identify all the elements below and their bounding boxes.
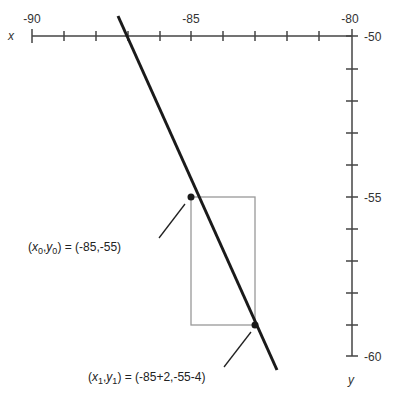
x-tick-label-left: -90 [23, 12, 41, 26]
point-p1 [252, 322, 259, 329]
y-tick-label-top: -50 [364, 30, 382, 44]
x-axis [32, 29, 352, 43]
y-tick-label-bottom: -60 [364, 350, 382, 364]
delta-rectangle [191, 197, 255, 325]
x-tick-label-mid: -85 [182, 12, 200, 26]
y-tick-label-mid: -55 [364, 191, 382, 205]
annotation-p1: (x1,y1) = (-85+2,-55-4) [88, 370, 205, 386]
x-tick-label-right: -80 [341, 12, 359, 26]
annotation-p0: (x0,y0) = (-85,-55) [28, 240, 121, 256]
leader-line-p1 [224, 332, 251, 367]
y-axis-name: y [347, 373, 355, 387]
coordinate-diagram: -90 -85 -80 -50 -55 -60 x y (x0,y0) = (-… [0, 0, 399, 397]
leader-line-p0 [159, 204, 185, 238]
y-axis [346, 29, 358, 356]
plotted-line [118, 16, 277, 370]
x-axis-name: x [7, 29, 15, 43]
point-p0 [188, 194, 195, 201]
